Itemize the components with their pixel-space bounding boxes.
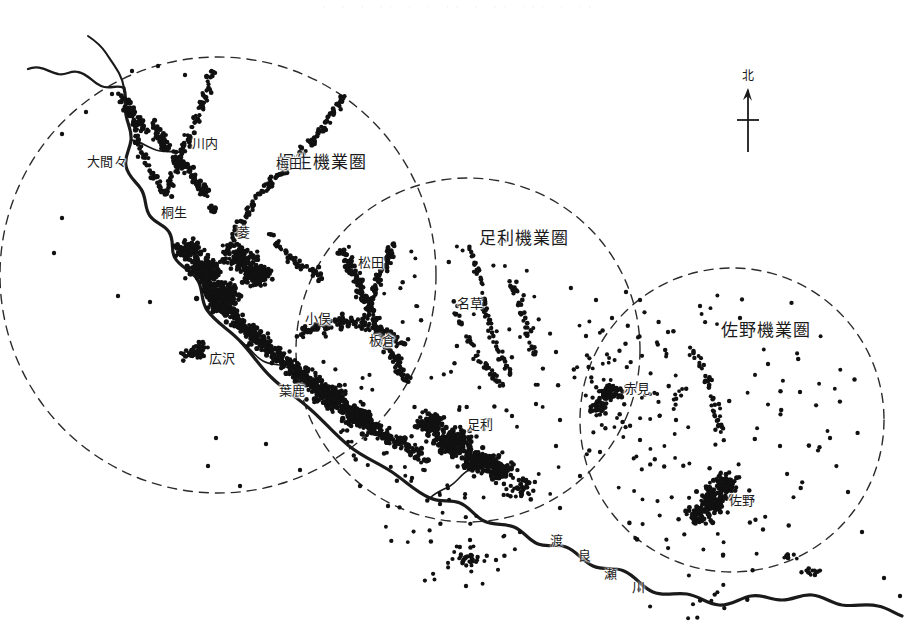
establishment-dot (377, 316, 381, 320)
establishment-dot (365, 308, 369, 312)
establishment-dot (838, 368, 842, 372)
establishment-dot (468, 522, 472, 526)
establishment-dot (700, 503, 704, 507)
establishment-dot (412, 530, 416, 534)
establishment-dot (268, 232, 273, 237)
establishment-dot (396, 354, 401, 359)
establishment-dot (708, 481, 712, 485)
establishment-dot (392, 357, 397, 362)
establishment-dot (450, 557, 454, 561)
establishment-dot (295, 334, 300, 339)
establishment-dot (190, 265, 194, 269)
establishment-dot (763, 515, 767, 519)
establishment-dot (488, 318, 493, 323)
establishment-dot (468, 553, 473, 558)
establishment-dot (400, 280, 405, 285)
establishment-dot (229, 289, 234, 294)
establishment-dot (781, 379, 785, 383)
establishment-dot (676, 517, 681, 522)
establishment-dot (819, 334, 823, 338)
establishment-dot (711, 409, 716, 414)
establishment-dot (333, 367, 337, 371)
establishment-dot (431, 440, 436, 445)
establishment-dot (220, 306, 224, 310)
establishment-dot (591, 430, 595, 434)
establishment-dot (484, 362, 489, 367)
establishment-dot (206, 464, 210, 468)
establishment-dot (475, 469, 480, 474)
establishment-dot (766, 362, 770, 366)
establishment-dot (441, 415, 446, 420)
establishment-dot (168, 171, 173, 176)
establishment-dot (141, 155, 146, 160)
establishment-dot (60, 216, 64, 220)
establishment-dot (572, 375, 576, 379)
establishment-dot (509, 286, 513, 290)
establishment-dot (490, 368, 494, 372)
establishment-dot (199, 350, 204, 355)
establishment-dot (785, 472, 789, 476)
establishment-dot (778, 444, 782, 448)
establishment-dot (210, 291, 215, 296)
establishment-dot (617, 349, 621, 353)
establishment-dot (202, 248, 206, 252)
establishment-dot (718, 483, 723, 488)
establishment-dot (350, 440, 354, 444)
establishment-dot (507, 327, 511, 331)
establishment-dot (626, 324, 630, 328)
establishment-dot (641, 497, 645, 501)
establishment-dot (838, 399, 842, 403)
establishment-dot (525, 485, 530, 490)
establishment-dot (722, 438, 726, 442)
establishment-dot (367, 322, 371, 326)
establishment-dot (453, 425, 458, 430)
establishment-dot (798, 390, 802, 394)
establishment-dot (446, 565, 450, 569)
establishment-dot (716, 502, 721, 507)
establishment-dot (594, 298, 598, 302)
establishment-dot (156, 64, 160, 68)
establishment-dot (208, 206, 212, 210)
establishment-dot (755, 426, 759, 430)
establishment-dot (185, 165, 189, 169)
establishment-dot (236, 292, 241, 297)
establishment-dot (485, 554, 489, 558)
establishment-dot (637, 334, 641, 338)
establishment-dot (181, 358, 186, 363)
establishment-dot (474, 268, 478, 272)
establishment-dot (356, 317, 360, 321)
establishment-dot (353, 457, 358, 462)
place-label-8: 板倉 (369, 334, 396, 347)
establishment-dot (293, 375, 298, 380)
establishment-dot (419, 446, 424, 451)
establishment-dot (721, 583, 725, 587)
establishment-dot (670, 495, 674, 499)
establishment-dot (126, 98, 131, 103)
place-label-13: 佐野 (729, 494, 756, 507)
establishment-dot (688, 353, 692, 357)
establishment-dot (817, 445, 821, 449)
establishment-dot (198, 280, 203, 285)
establishment-dot (278, 172, 283, 177)
establishment-dot (628, 424, 632, 428)
establishment-dot (487, 335, 491, 339)
establishment-dot (221, 311, 226, 316)
establishment-dot (463, 496, 467, 500)
establishment-dot (527, 341, 531, 345)
establishment-dot (629, 360, 633, 364)
establishment-dot (238, 484, 242, 488)
establishment-dot (808, 571, 812, 575)
establishment-dot (662, 464, 666, 468)
establishment-dot (656, 400, 660, 404)
establishment-dot (609, 378, 613, 382)
establishment-dot (515, 425, 519, 429)
establishment-dot (409, 249, 413, 253)
establishment-dot (688, 345, 692, 349)
establishment-dot (409, 434, 413, 438)
establishment-dot (515, 468, 519, 472)
establishment-dot (707, 383, 712, 388)
establishment-dot (423, 579, 427, 583)
establishment-dot (215, 282, 220, 287)
establishment-dot (110, 92, 114, 96)
place-label-9: 広沢 (209, 352, 236, 365)
